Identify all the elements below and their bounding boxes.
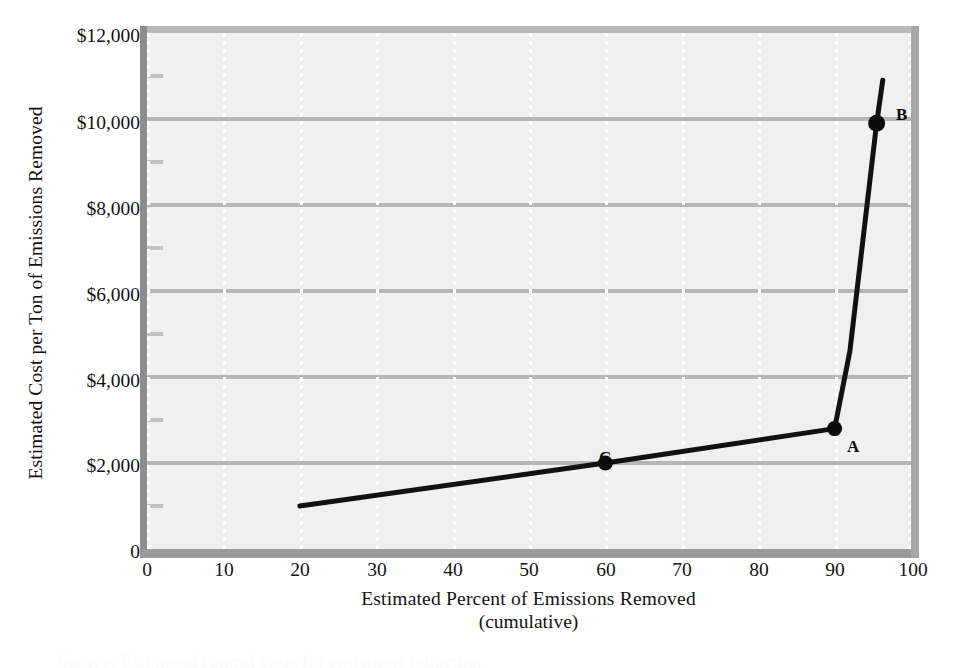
x-tick-label-0: 0 xyxy=(112,559,182,581)
frame-edge-bottom xyxy=(140,549,919,558)
y-tick-label-4000: $4,000 xyxy=(40,370,140,392)
x-tick-label-70: 70 xyxy=(647,559,717,581)
cost-curve-figure: Estimated Cost per Ton of Emissions Remo… xyxy=(0,0,954,668)
y-tick-label-8000: $8,000 xyxy=(40,198,140,220)
plot-frame: C A B xyxy=(140,26,919,558)
data-point-label-a: A xyxy=(847,437,859,457)
figure-caption-cutoff: Source: Estimated control costs for emis… xyxy=(0,655,954,668)
frame-edge-top xyxy=(140,26,919,33)
frame-edge-left xyxy=(140,26,147,558)
figure-caption-text: Source: Estimated control costs for emis… xyxy=(58,655,954,668)
y-tick-label-12000: $12,000 xyxy=(40,25,140,47)
x-tick-label-group: 0 10 20 30 40 50 60 70 80 90 100 xyxy=(0,559,954,589)
data-point-label-c: C xyxy=(599,448,611,468)
x-axis-title-line2: (cumulative) xyxy=(145,611,912,633)
x-tick-label-60: 60 xyxy=(571,559,641,581)
frame-edge-right xyxy=(911,26,919,558)
x-tick-label-20: 20 xyxy=(265,559,335,581)
x-tick-label-10: 10 xyxy=(189,559,259,581)
x-tick-label-100: 100 xyxy=(878,559,948,581)
series-plot xyxy=(147,33,911,549)
x-tick-label-50: 50 xyxy=(494,559,564,581)
data-point-a xyxy=(827,421,842,436)
data-point-b xyxy=(868,115,885,132)
x-tick-label-40: 40 xyxy=(418,559,488,581)
data-point-label-b: B xyxy=(896,105,907,125)
x-tick-label-90: 90 xyxy=(800,559,870,581)
y-tick-label-10000: $10,000 xyxy=(40,112,140,134)
series-line-abatement-cost xyxy=(300,80,883,506)
y-tick-label-2000: $2,000 xyxy=(40,455,140,477)
x-axis-title-line1: Estimated Percent of Emissions Removed xyxy=(145,588,912,610)
x-tick-label-80: 80 xyxy=(724,559,794,581)
x-axis-title: Estimated Percent of Emissions Removed (… xyxy=(145,588,912,633)
plot-area: C A B xyxy=(147,33,911,549)
y-tick-label-6000: $6,000 xyxy=(40,284,140,306)
x-tick-label-30: 30 xyxy=(342,559,412,581)
